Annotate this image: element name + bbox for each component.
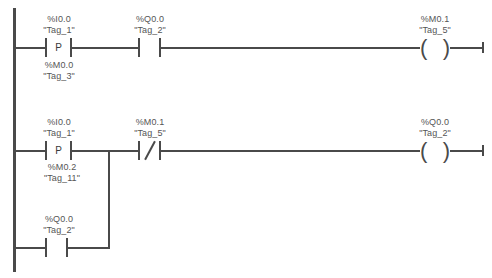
rung-2-branch-contact-tag: "Tag_2" (33, 225, 85, 236)
rung-1-output-coil[interactable]: ( ) (420, 37, 450, 58)
rung-2-nc-contact-address: %M0.1 (124, 117, 176, 128)
rung-1-normally-open-contact[interactable] (138, 38, 161, 57)
rung-2-coil-tag: "Tag_2" (409, 128, 461, 139)
rung-1-positive-edge-contact[interactable]: P (45, 38, 72, 57)
rung-2-edge-contact-address: %I0.0 (33, 117, 85, 128)
rung-2-edge-memory-address: %M0.2 (33, 162, 91, 173)
rung-2-branch-wire-contact-to-vertical (68, 247, 110, 249)
coil-paren-right: ) (443, 39, 450, 57)
rung-2-normally-closed-contact[interactable] (138, 141, 161, 160)
rung-2-coil-label: %Q0.0 "Tag_2" (409, 117, 461, 139)
rung-2-edge-contact-tag: "Tag_1" (33, 128, 85, 139)
contact-bar-left (45, 141, 47, 160)
rung-2-branch-contact-label: %Q0.0 "Tag_2" (33, 214, 85, 236)
ladder-diagram: %I0.0 "Tag_1" P %M0.0 "Tag_3" %Q0.0 "Tag… (0, 0, 492, 278)
rung-2-branch-wire-rail-to-contact (14, 247, 45, 249)
rung-2-wire-nc-contact-to-coil (161, 150, 420, 152)
rung-2-right-terminator (482, 145, 484, 156)
rung-2-output-coil[interactable]: ( ) (420, 140, 450, 161)
rung-1-edge-memory-tag: "Tag_3" (33, 71, 85, 82)
rung-2-branch-normally-open-contact[interactable] (45, 238, 68, 257)
rung-2-coil-address: %Q0.0 (409, 117, 461, 128)
edge-contact-p-symbol: P (55, 146, 62, 156)
rung-2-branch-vertical-connector (108, 150, 110, 249)
rung-2-wire-branch-node-to-nc-contact (109, 150, 138, 152)
rung-1-no-contact-label: %Q0.0 "Tag_2" (124, 14, 176, 36)
rung-2-wire-edge-to-branch-node (72, 150, 111, 152)
rung-2-wire-coil-to-end (450, 150, 483, 152)
rung-1-coil-address: %M0.1 (409, 14, 461, 25)
rung-2-edge-memory-tag: "Tag_11" (33, 173, 91, 184)
rung-1-wire-no-contact-to-coil (161, 47, 420, 49)
rung-1-wire-edge-to-no-contact (72, 47, 138, 49)
contact-bar-left (138, 38, 140, 57)
rung-2-branch-contact-address: %Q0.0 (33, 214, 85, 225)
rung-1-coil-tag: "Tag_5" (409, 25, 461, 36)
coil-paren-left: ( (420, 39, 427, 57)
edge-contact-p-symbol: P (55, 43, 62, 53)
rung-1-edge-contact-tag: "Tag_1" (33, 25, 85, 36)
contact-bar-left (45, 38, 47, 57)
coil-paren-right: ) (443, 142, 450, 160)
rung-2-nc-contact-label: %M0.1 "Tag_5" (124, 117, 176, 139)
contact-bar-left (45, 238, 47, 257)
rung-1-wire-coil-to-end (450, 47, 483, 49)
rung-2-wire-rail-to-edge-contact (14, 150, 45, 152)
coil-paren-left: ( (420, 142, 427, 160)
contact-bar-left (138, 141, 140, 160)
rung-1-wire-rail-to-edge-contact (14, 47, 45, 49)
rung-1-edge-contact-top-label: %I0.0 "Tag_1" (33, 14, 85, 36)
rung-2-nc-contact-tag: "Tag_5" (124, 128, 176, 139)
rung-2-edge-contact-top-label: %I0.0 "Tag_1" (33, 117, 85, 139)
rung-2-positive-edge-contact[interactable]: P (45, 141, 72, 160)
nc-contact-slash (144, 141, 156, 160)
rung-2-edge-memory-label: %M0.2 "Tag_11" (33, 162, 91, 184)
rung-1-no-contact-address: %Q0.0 (124, 14, 176, 25)
rung-1-coil-label: %M0.1 "Tag_5" (409, 14, 461, 36)
rung-1-edge-memory-label: %M0.0 "Tag_3" (33, 60, 85, 82)
rung-1-edge-contact-address: %I0.0 (33, 14, 85, 25)
rung-1-no-contact-tag: "Tag_2" (124, 25, 176, 36)
rung-1-edge-memory-address: %M0.0 (33, 60, 85, 71)
rung-1-right-terminator (482, 42, 484, 53)
